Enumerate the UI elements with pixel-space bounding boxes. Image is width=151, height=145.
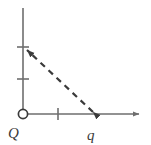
diagram-canvas: Q q [0,0,151,145]
origin-open-circle-marker [18,109,27,118]
physics-diagram-figure: Q q [0,0,151,145]
dashed-double-arrow [27,50,93,112]
label-Q: Q [8,125,19,141]
label-q: q [87,127,95,143]
